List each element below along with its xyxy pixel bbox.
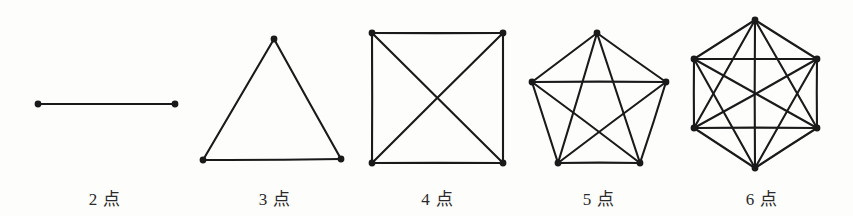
graph-edges bbox=[203, 39, 341, 160]
graph-vertex-dot bbox=[555, 160, 562, 167]
graph-vertex-dot bbox=[369, 160, 376, 167]
graph-vertex-dot bbox=[691, 56, 698, 63]
figure-k2: 2 点 bbox=[0, 0, 210, 216]
figure-caption-k3: 3 点 bbox=[190, 185, 360, 210]
graph-edge bbox=[274, 39, 341, 159]
graph-edges bbox=[372, 33, 503, 163]
graph-edge bbox=[597, 33, 640, 163]
graph-vertex-dot bbox=[500, 30, 507, 37]
figure-k5: 5 点 bbox=[518, 0, 680, 216]
graph-edges bbox=[694, 20, 817, 168]
graph-edge bbox=[558, 82, 666, 163]
figure-k4: 4 点 bbox=[355, 0, 520, 216]
figure-k3: 3 点 bbox=[190, 0, 360, 216]
figure-sheet: 2 点 3 点 4 点 5 点 6 点 bbox=[0, 0, 853, 216]
graph-vertex-dot bbox=[814, 56, 821, 63]
graph-vertex-dot bbox=[691, 125, 698, 132]
graph-edge bbox=[597, 33, 666, 82]
graph-vertex-dot bbox=[369, 30, 376, 37]
graph-vertex-dot bbox=[35, 101, 42, 108]
graph-vertex-dot bbox=[663, 79, 670, 86]
graph-edge bbox=[694, 128, 755, 168]
graph-vertex-dot bbox=[500, 160, 507, 167]
graph-drawing-k2 bbox=[0, 0, 210, 180]
graph-edge bbox=[532, 82, 558, 163]
graph-drawing-k4 bbox=[355, 0, 520, 180]
graph-vertex-dot bbox=[814, 125, 821, 132]
figure-caption-k4: 4 点 bbox=[355, 185, 520, 210]
graph-vertex-dot bbox=[172, 101, 179, 108]
graph-drawing-k3 bbox=[190, 0, 360, 180]
graph-edge bbox=[755, 128, 817, 168]
graph-edge bbox=[203, 39, 274, 160]
graph-vertex-dot bbox=[200, 157, 207, 164]
graph-vertex-dot bbox=[752, 165, 759, 172]
graph-vertices bbox=[200, 36, 345, 164]
figure-caption-k2: 2 点 bbox=[0, 185, 210, 210]
graph-drawing-k6 bbox=[682, 0, 842, 180]
graph-edge bbox=[203, 159, 341, 160]
graph-edge bbox=[755, 20, 817, 59]
figure-caption-k6: 6 点 bbox=[682, 185, 842, 210]
graph-vertices bbox=[529, 30, 670, 167]
graph-vertex-dot bbox=[752, 17, 759, 24]
graph-edges bbox=[532, 33, 666, 163]
graph-vertex-dot bbox=[637, 160, 644, 167]
figure-caption-k5: 5 点 bbox=[518, 185, 680, 210]
figure-k6: 6 点 bbox=[682, 0, 842, 216]
graph-vertex-dot bbox=[529, 79, 536, 86]
graph-vertex-dot bbox=[594, 30, 601, 37]
graph-vertex-dot bbox=[338, 156, 345, 163]
graph-edge bbox=[532, 33, 597, 82]
graph-edge bbox=[694, 20, 755, 59]
graph-vertex-dot bbox=[271, 36, 278, 43]
graph-drawing-k5 bbox=[518, 0, 680, 180]
graph-edge bbox=[640, 82, 666, 163]
graph-edge bbox=[558, 33, 597, 163]
graph-edge bbox=[532, 82, 640, 163]
